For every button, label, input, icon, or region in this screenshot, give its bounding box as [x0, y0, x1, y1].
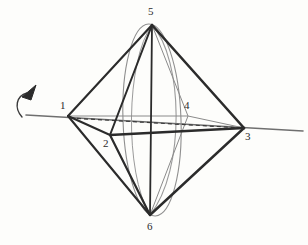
vertex-label-4: 4 [184, 100, 190, 111]
dashed-edge-1-3 [70, 118, 243, 128]
vertex-label-5: 5 [148, 6, 154, 17]
vertex-label-2: 2 [103, 138, 109, 149]
thin-edge-5-4 [152, 25, 188, 116]
rotation-arrow-icon [17, 85, 36, 117]
octahedron-svg [0, 0, 308, 245]
vertex-label-3: 3 [245, 131, 251, 142]
octahedron-diagram: 5 1 2 3 4 6 [0, 0, 308, 245]
vertex-label-6: 6 [147, 221, 153, 232]
solid-edge-3-6 [150, 128, 244, 215]
solid-edge-5-6 [150, 25, 152, 215]
vertex-label-1: 1 [60, 100, 66, 111]
solid-edge-5-3 [152, 25, 244, 128]
solid-edge-1-5 [68, 25, 152, 116]
solid-edge-1-6 [68, 116, 150, 215]
solid-edge-2-3 [110, 128, 244, 135]
